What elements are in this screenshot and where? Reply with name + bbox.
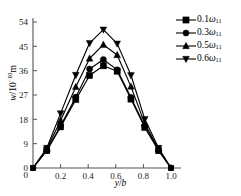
y-tick-label: 27 [19,90,29,100]
legend-item-3: 0.6ω11 [176,52,239,65]
data-point-marker [183,16,189,22]
y-tick-label: 9 [24,139,29,149]
data-point-marker [86,40,93,46]
data-point-marker [114,51,121,57]
data-point-marker [100,63,106,69]
series-line [33,30,171,168]
series-line [33,60,171,168]
legend-item-2: 0.5ω11 [176,39,239,52]
legend-label-2: 0.5ω11 [196,39,222,53]
x-axis-label: y/b [0,178,241,188]
chart-figure: 0918273645540.20.40.60.81.00 w/10−10m y/… [0,0,241,196]
y-tick-label: 54 [19,17,29,27]
y-tick-label: 18 [19,115,29,125]
legend: 0.1ω110.3ω110.5ω110.6ω11 [176,13,239,65]
data-point-marker [72,83,79,89]
y-axis-label: w/10−10m [2,47,20,119]
y-tick-label: 36 [19,66,29,76]
y-axis-label-text: w/10−10m [8,65,18,101]
series-1 [30,56,173,170]
legend-marker-triangle-up-icon [176,40,196,52]
data-point-marker [183,29,189,35]
legend-marker-circle-icon [176,27,196,39]
legend-label-1: 0.3ω11 [196,26,222,40]
data-point-marker [73,94,79,100]
data-series [30,27,174,171]
legend-marker-square-icon [176,14,196,26]
data-point-marker [72,72,79,78]
data-point-marker [114,67,120,73]
legend-item-1: 0.3ω11 [176,26,239,39]
legend-label-3: 0.6ω11 [196,52,222,66]
y-tick-label: 45 [19,42,29,52]
series-line [33,66,171,168]
series-0 [30,63,173,171]
series-3 [30,27,174,171]
data-point-marker [128,94,134,100]
data-point-marker [100,41,107,47]
data-point-marker [100,56,106,62]
data-point-marker [128,73,135,79]
data-point-marker [86,66,92,72]
data-point-marker [114,41,121,47]
legend-marker-triangle-down-icon [176,53,196,65]
legend-item-0: 0.1ω11 [176,13,239,26]
legend-label-0: 0.1ω11 [196,13,222,27]
